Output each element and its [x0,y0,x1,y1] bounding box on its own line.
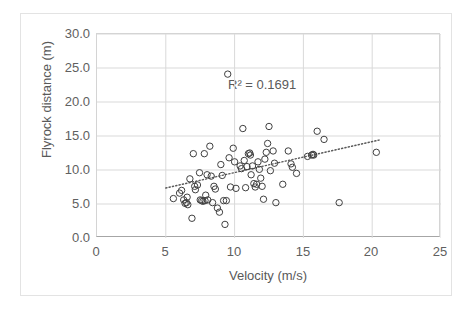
scatter-point [293,170,299,176]
scatter-point [209,199,215,205]
scatter-point [204,172,210,178]
x-tick-label: 10 [214,245,254,258]
scatter-point [222,221,228,227]
scatter-point [208,173,214,179]
x-tick-label: 0 [76,245,116,258]
scatter-point [321,136,327,142]
scatter-point [260,196,266,202]
trendline-path [166,140,379,188]
x-tick-label: 5 [145,245,185,258]
scatter-point [314,128,320,134]
x-tick-label: 15 [283,245,323,258]
chart-figure: Flyrock distance (m) 30.0 25.0 20.0 15.0… [0,0,475,313]
scatter-point [255,159,261,165]
scatter-point [225,71,231,77]
scatter-point [280,181,286,187]
scatter-point [218,161,224,167]
scatter-point [187,176,193,182]
scatter-point [373,149,379,155]
x-tick-label: 20 [351,245,391,258]
scatter-plot-canvas [97,34,441,238]
scatter-point [226,155,232,161]
scatter-point [273,199,279,205]
scatter-point [267,167,273,173]
x-axis-title: Velocity (m/s) [96,268,440,283]
scatter-point [270,148,276,154]
scatter-point [259,183,265,189]
x-tick-label: 25 [420,245,460,258]
plot-area [96,33,440,237]
scatter-point [262,156,268,162]
scatter-point [266,123,272,129]
scatter-point [189,215,195,221]
scatter-point [230,145,236,151]
scatter-point [201,150,207,156]
scatter-point [207,143,213,149]
scatter-point [248,172,254,178]
scatter-point [264,140,270,146]
scatter-point [170,195,176,201]
y-gridlines [97,34,441,204]
scatter-point [240,125,246,131]
scatter-point [241,157,247,163]
scatter-point [263,149,269,155]
scatter-point [285,148,291,154]
scatter-point [190,150,196,156]
scatter-point [258,175,264,181]
scatter-point [242,184,248,190]
trendline [166,140,379,188]
scatter-point [336,199,342,205]
